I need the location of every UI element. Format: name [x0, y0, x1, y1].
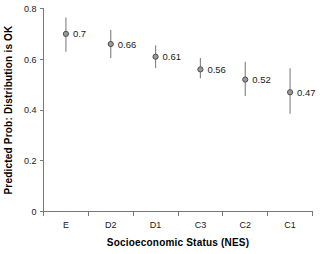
- data-point-marker: [198, 67, 203, 72]
- chart-container: 00.20.40.60.8ED2D1C3C2C10.70.660.610.560…: [0, 0, 325, 254]
- y-axis-title: Predicted Prob: Distribution is OK: [3, 25, 14, 195]
- x-axis-tick-label: C2: [239, 220, 251, 230]
- x-axis-title: Socioeconomic Status (NES): [107, 237, 249, 248]
- data-point-marker: [153, 54, 158, 59]
- data-point-marker: [63, 31, 68, 36]
- data-point-label: 0.66: [118, 39, 137, 50]
- y-axis-tick-label: 0: [31, 207, 36, 217]
- data-point-marker: [108, 41, 113, 46]
- x-axis-tick-label: D1: [150, 220, 162, 230]
- x-axis-tick-label: D2: [105, 220, 117, 230]
- x-axis-tick-label: C1: [284, 220, 296, 230]
- data-point-label: 0.56: [207, 64, 226, 75]
- data-point-label: 0.7: [73, 28, 86, 39]
- y-axis-tick-label: 0.6: [24, 55, 37, 65]
- y-axis-tick-label: 0.2: [24, 156, 37, 166]
- y-axis-tick-label: 0.8: [24, 4, 37, 14]
- y-axis-tick-label: 0.4: [24, 105, 37, 115]
- x-axis-tick-label: C3: [195, 220, 207, 230]
- data-point-label: 0.52: [252, 74, 271, 85]
- data-point-label: 0.47: [297, 87, 316, 98]
- data-point-marker: [287, 90, 292, 95]
- x-axis-tick-label: E: [63, 220, 69, 230]
- scatter-plot-with-error-bars: 00.20.40.60.8ED2D1C3C2C10.70.660.610.560…: [0, 0, 325, 254]
- data-point-marker: [243, 77, 248, 82]
- data-point-label: 0.61: [163, 51, 182, 62]
